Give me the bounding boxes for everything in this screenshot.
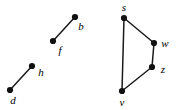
graph-node-label-d: d [10,95,16,106]
graph-node-f [50,38,56,44]
graph-edge-s-v [122,18,124,91]
graph-edge-h-d [10,66,32,90]
graph-node-w [151,40,157,46]
graph-figure: bfhdswzv [0,0,183,110]
graph-edge-z-v [122,67,152,91]
graph-node-label-v: v [120,97,125,108]
graph-edge-w-z [152,43,154,67]
graph-node-label-s: s [122,2,126,13]
graph-node-label-b: b [78,21,84,32]
graph-node-label-f: f [58,45,61,56]
graph-node-label-h: h [38,67,44,78]
graph-node-z [149,64,155,70]
graph-node-h [29,63,35,69]
graph-edge-b-f [53,17,75,41]
graph-edge-s-w [124,18,154,43]
graph-node-label-w: w [161,38,168,49]
graph-node-s [121,15,127,21]
graph-node-label-z: z [161,64,165,75]
graph-node-d [7,87,13,93]
graph-canvas [0,0,183,110]
graph-node-v [119,88,125,94]
graph-node-b [72,14,78,20]
